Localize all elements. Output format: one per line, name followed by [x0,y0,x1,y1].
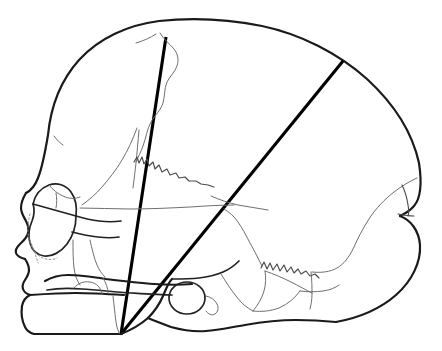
jugular-region [265,271,312,293]
orbital-rim-lateral [29,204,76,256]
maxillary-alveolar-margin [30,293,124,295]
skull-diagram-svg [0,0,442,351]
maxilla-posterior-margin [73,240,80,285]
mandibular-ramus-margin [113,296,120,334]
anterior-fontanelle-edge [136,34,156,43]
measurement-line-anterior[interactable] [121,37,166,334]
frontal-anterior-curve [26,135,48,193]
facial-skeleton [16,184,192,334]
vault-superior-curve [48,19,419,163]
squamosal-suture-continuation [211,196,268,210]
cranial-sutures [80,33,417,278]
mandible-body [22,295,121,334]
lambdoid-suture-upper-limb [224,209,262,266]
mastoid-inferior-margin [148,318,336,331]
vault-posterior-curve [400,163,421,216]
nasal-maxilla-profile [23,259,30,295]
glabella-nasion-profile [16,193,29,259]
orbital-rim-superior [33,184,76,216]
measurement-line-oblique[interactable] [121,61,343,334]
frontozygomatic-branch [56,193,57,208]
occipitoparietal-boundary [312,178,417,272]
mastoid-anterior-margin [221,274,253,311]
lambdoid-suture [261,262,319,278]
occipitomastoid-suture [310,272,312,309]
occipital-posterior-curve [336,216,420,322]
sphenoid-greater-wing-anterior-margin [82,128,137,205]
occipital-squama-inferior [300,285,339,292]
petrous-temporal-margin [172,261,239,279]
measurement-lines [121,37,343,334]
frontal-suture-trace [54,136,63,145]
tympanic-ring [206,296,218,315]
pterygoid-region [90,240,105,277]
occipital-condyle-region [253,271,266,311]
skull-diagram-figure: Lateral view line drawing of a neonatal … [0,0,442,351]
infratemporal-crest [72,232,119,238]
temporal-fossa-inferior-margin [76,216,121,222]
external-acoustic-meatus [169,282,205,314]
temporal-squama-inferior-margin [80,205,234,209]
nasal-cavity-trace [30,240,38,263]
